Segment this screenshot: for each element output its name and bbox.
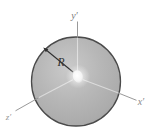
x-axis-line (120, 94, 137, 101)
disk-axes-figure: y′ x′ z′ R (0, 0, 154, 137)
radius-label: R (56, 56, 64, 68)
y-axis-label: y′ (70, 10, 78, 21)
center-point (66, 65, 90, 89)
z-axis-label: z′ (5, 112, 13, 122)
x-axis-label: x′ (137, 96, 145, 107)
z-axis-line (16, 98, 39, 111)
figure-canvas: y′ x′ z′ R (0, 0, 154, 137)
